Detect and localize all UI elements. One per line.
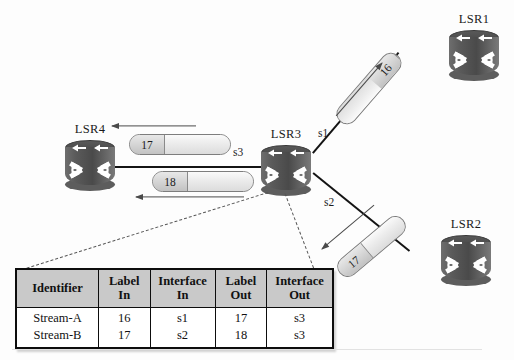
- cell-identifier: Stream-B: [16, 327, 99, 348]
- col-header-identifier-line1: Identifier: [19, 282, 96, 296]
- page-rule-divider: [12, 349, 482, 350]
- router-lsr4[interactable]: LSR4: [62, 140, 118, 190]
- router-lsr3-label: LSR3: [258, 127, 314, 142]
- packet-label-16: 16: [332, 48, 406, 128]
- router-arrows-icon: [62, 140, 118, 190]
- router-lsr2-label: LSR2: [438, 217, 494, 232]
- col-header-label-in: Label In: [99, 269, 151, 308]
- router-lsr4-label: LSR4: [62, 122, 118, 137]
- cell-interface-out: s3: [267, 308, 333, 328]
- col-header-label-out-line2: Out: [218, 289, 265, 303]
- router-lsr3[interactable]: LSR3: [258, 145, 314, 195]
- col-header-label-out-line1: Label: [218, 275, 265, 289]
- router-arrows-icon: [258, 145, 314, 195]
- packet-17-out-label: 17: [130, 135, 165, 154]
- col-header-interface-out: Interface Out: [267, 269, 333, 308]
- cell-interface-in: s2: [150, 327, 215, 348]
- packet-18-out-payload: [188, 172, 253, 191]
- packet-16-payload: [334, 76, 382, 127]
- cell-interface-in: s1: [150, 308, 215, 328]
- cell-label-out: 18: [215, 327, 267, 348]
- link-lsr3-lsr4: [108, 166, 264, 168]
- col-header-interface-in-line1: Interface: [153, 275, 213, 289]
- packet-label-17-out: 17: [129, 134, 231, 155]
- col-header-label-in-line2: In: [101, 289, 148, 303]
- table-header-row: Identifier Label In Interface In Label O…: [16, 269, 333, 308]
- packet-label-18-out: 18: [152, 171, 254, 192]
- interface-label-s3: s3: [233, 146, 243, 158]
- col-header-label-out: Label Out: [215, 269, 267, 308]
- col-header-interface-in: Interface In: [150, 269, 215, 308]
- router-arrows-icon: [446, 30, 502, 80]
- mpls-diagram-canvas: LSR1 LSR2: [0, 0, 514, 360]
- callout-line-left: [17, 192, 268, 272]
- col-header-interface-out-line2: Out: [269, 289, 330, 303]
- cell-label-in: 16: [99, 308, 151, 328]
- router-lsr1-label: LSR1: [446, 12, 502, 27]
- router-lsr1[interactable]: LSR1: [446, 30, 502, 80]
- interface-label-s1: s1: [318, 127, 328, 139]
- cell-label-in: 17: [99, 327, 151, 348]
- router-arrows-icon: [438, 235, 494, 285]
- router-lsr2[interactable]: LSR2: [438, 235, 494, 285]
- forwarding-table: Identifier Label In Interface In Label O…: [15, 268, 334, 349]
- cell-identifier: Stream-A: [16, 308, 99, 328]
- interface-label-s2: s2: [324, 196, 334, 208]
- cell-interface-out: s3: [267, 327, 333, 348]
- callout-line-right: [285, 193, 318, 277]
- table-row: Stream-A 16 s1 17 s3: [16, 308, 333, 328]
- table-row: Stream-B 17 s2 18 s3: [16, 327, 333, 348]
- col-header-label-in-line1: Label: [101, 275, 148, 289]
- col-header-interface-out-line1: Interface: [269, 275, 330, 289]
- col-header-interface-in-line2: In: [153, 289, 213, 303]
- packet-17-out-payload: [165, 135, 230, 154]
- col-header-identifier: Identifier: [16, 269, 99, 308]
- packet-18-out-label: 18: [153, 172, 188, 191]
- cell-label-out: 17: [215, 308, 267, 328]
